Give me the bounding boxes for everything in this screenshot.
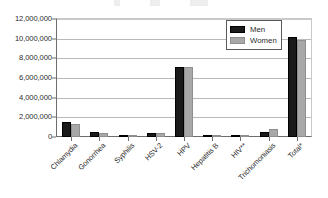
x-axis-tick-label: HSV-2: [143, 141, 164, 162]
x-axis-tick-label: HIV**: [230, 141, 249, 160]
y-axis-tick-mark: [52, 97, 56, 98]
gray-square-swatch-icon: [230, 37, 245, 44]
x-axis-tick-mark: [184, 137, 185, 141]
x-axis-tick-mark: [212, 137, 213, 141]
x-axis-tick-label: Total*: [286, 141, 305, 160]
chart-legend: Men Women: [226, 20, 282, 50]
legend-entry-women: Women: [230, 35, 277, 45]
x-axis-tick-mark: [297, 137, 298, 141]
black-square-swatch-icon: [230, 26, 245, 33]
y-axis-tick-mark: [52, 38, 56, 39]
x-axis-tick-mark: [71, 137, 72, 141]
x-axis-tick-label: HPV: [175, 141, 192, 158]
legend-label-men: Men: [250, 25, 265, 34]
y-axis-tick-mark: [52, 78, 56, 79]
legend-entry-men: Men: [230, 24, 277, 34]
x-axis-tick-label: Syphilis: [112, 141, 136, 165]
x-axis-tick-label: Gonorrhea: [77, 141, 108, 172]
x-axis-tick-mark: [99, 137, 100, 141]
y-axis-tick-mark: [52, 19, 56, 20]
legend-label-women: Women: [250, 36, 277, 45]
x-axis-tick-label: Hepatitis B: [189, 141, 220, 172]
x-axis-tick-mark: [128, 137, 129, 141]
bar-chart-figure: 02,000,0004,000,0006,000,0008,000,00010,…: [0, 0, 328, 198]
y-axis-tick-mark: [52, 137, 56, 138]
x-axis-tick-label: Chlamydia: [49, 141, 80, 172]
x-axis-tick-mark: [156, 137, 157, 141]
y-axis-tick-mark: [52, 58, 56, 59]
x-axis-tick-mark: [269, 137, 270, 141]
y-axis-tick-mark: [52, 117, 56, 118]
x-axis-tick-mark: [240, 137, 241, 141]
